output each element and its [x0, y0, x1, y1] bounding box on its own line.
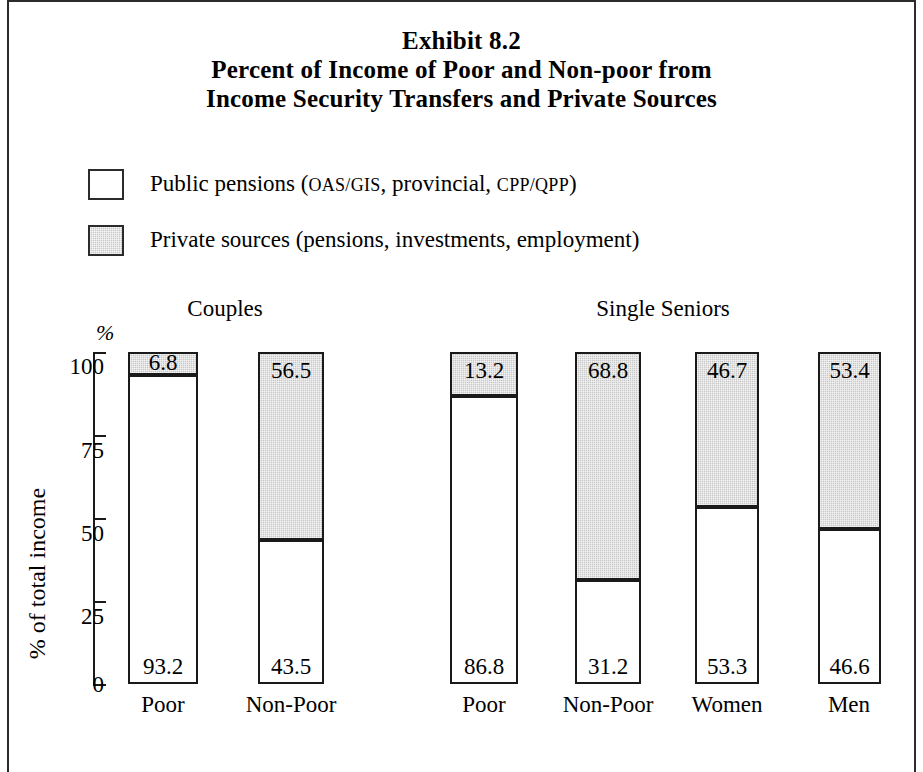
bar-value-public-single-poor: 86.8: [450, 655, 518, 678]
y-axis-label-75: 75: [52, 439, 104, 462]
category-label-couples-poor: Poor: [141, 692, 184, 718]
y-axis-label-0: 0: [52, 673, 104, 696]
category-label-couples-non-poor: Non-Poor: [246, 692, 337, 718]
bar-single-non-poor: 68.8 31.2: [575, 352, 641, 684]
y-axis-label-100: 100: [52, 355, 104, 378]
bar-value-public-couples-poor: 93.2: [128, 655, 198, 678]
bar-segment-private-single-non-poor: [575, 352, 641, 580]
bar-single-women: 46.7 53.3: [695, 352, 759, 684]
group-label-couples: Couples: [187, 296, 262, 322]
bar-value-private-single-women: 46.7: [695, 359, 759, 382]
category-label-single-poor: Poor: [462, 692, 505, 718]
bar-value-private-single-poor: 13.2: [450, 359, 518, 382]
y-axis-unit: %: [96, 320, 114, 346]
exhibit-figure: Exhibit 8.2 Percent of Income of Poor an…: [0, 0, 923, 772]
bar-value-private-couples-poor: 6.8: [128, 351, 198, 374]
bar-single-men: 53.4 46.6: [818, 352, 881, 684]
bar-value-public-single-non-poor: 31.2: [575, 655, 641, 678]
plot-area: Couples Single Seniors % % of total inco…: [0, 0, 923, 772]
bar-value-private-single-non-poor: 68.8: [575, 359, 641, 382]
group-label-single-seniors: Single Seniors: [596, 296, 730, 322]
y-axis-label-25: 25: [52, 605, 104, 628]
bar-segment-public-couples-poor: [128, 375, 198, 684]
category-label-single-women: Women: [692, 692, 763, 718]
bar-value-public-couples-non-poor: 43.5: [258, 655, 324, 678]
bar-value-private-single-men: 53.4: [818, 359, 881, 382]
category-label-single-non-poor: Non-Poor: [563, 692, 654, 718]
bar-segment-public-single-poor: [450, 396, 518, 684]
bar-couples-poor: 6.8 93.2: [128, 352, 198, 684]
bar-value-public-single-men: 46.6: [818, 655, 881, 678]
bar-value-public-single-women: 53.3: [695, 655, 759, 678]
y-axis-title: % of total income: [24, 464, 51, 684]
bar-single-poor: 13.2 86.8: [450, 352, 518, 684]
bar-couples-non-poor: 56.5 43.5: [258, 352, 324, 684]
category-label-single-men: Men: [828, 692, 870, 718]
bar-value-private-couples-non-poor: 56.5: [258, 359, 324, 382]
y-axis-label-50: 50: [52, 522, 104, 545]
